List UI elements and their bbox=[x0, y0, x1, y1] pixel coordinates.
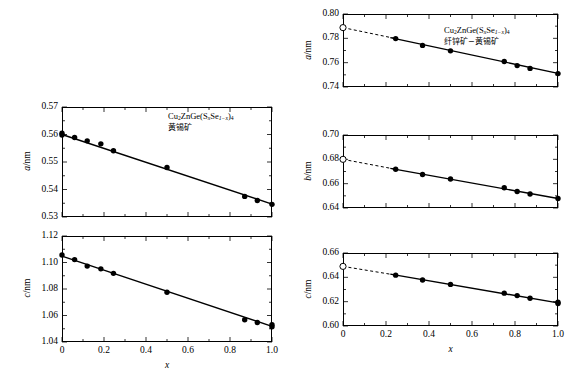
panel-right-c: 0.600.620.640.6600.20.40.60.81.0c/nmx bbox=[0, 0, 583, 388]
annotation-left-formula: Cu2ZnGe(SxSe1−x)4 bbox=[168, 110, 234, 122]
annotation-right-formula: Cu2ZnGe(SxSe1−x)4 bbox=[444, 24, 510, 36]
annotation-left: Cu2ZnGe(SxSe1−x)4 黄锡矿 bbox=[168, 110, 234, 134]
x-tick-label: 0.2 bbox=[371, 330, 401, 340]
data-point bbox=[502, 290, 507, 295]
data-point bbox=[527, 296, 532, 301]
data-point bbox=[393, 272, 398, 277]
annotation-right: Cu2ZnGe(SxSe1−x)4 纤锌矿−黄锡矿 bbox=[444, 24, 510, 48]
fit-line-right-c bbox=[390, 274, 558, 303]
y-axis-title-right-c: c/nm bbox=[303, 264, 313, 314]
data-point bbox=[514, 293, 519, 298]
y-tick-label: 0.66 bbox=[309, 248, 339, 258]
data-point bbox=[420, 277, 425, 282]
annotation-left-phase: 黄锡矿 bbox=[168, 122, 234, 134]
lattice-parameter-figure: 0.530.540.550.560.57a/nm 1.041.061.081.1… bbox=[0, 0, 583, 388]
data-point bbox=[448, 282, 453, 287]
plot-canvas-right-c bbox=[0, 0, 583, 388]
x-tick-label: 0.8 bbox=[500, 330, 530, 340]
x-tick-label: 0.6 bbox=[457, 330, 487, 340]
x-axis-title-right-c: x bbox=[436, 344, 466, 354]
open-data-point bbox=[340, 263, 346, 269]
dashed-extrapolation-right-c bbox=[343, 266, 395, 275]
y-tick-label: 0.62 bbox=[309, 297, 339, 307]
y-tick-label: 0.64 bbox=[309, 272, 339, 282]
x-tick-label: 1.0 bbox=[543, 330, 573, 340]
x-tick-label: 0 bbox=[328, 330, 358, 340]
annotation-right-phase: 纤锌矿−黄锡矿 bbox=[444, 36, 510, 48]
x-tick-label: 0.4 bbox=[414, 330, 444, 340]
data-point bbox=[555, 301, 560, 306]
